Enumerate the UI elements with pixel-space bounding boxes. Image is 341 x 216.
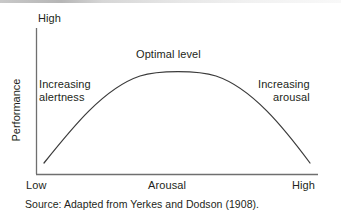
source-note: Source: Adapted from Yerkes and Dodson (… bbox=[25, 198, 259, 210]
y-axis-high-label: High bbox=[38, 12, 61, 25]
annotation-increasing-arousal: Increasing arousal bbox=[258, 78, 310, 103]
yerkes-dodson-figure: High Performance Low Arousal High Increa… bbox=[0, 0, 341, 216]
y-axis-title: Performance bbox=[10, 70, 22, 150]
x-axis-high-label: High bbox=[292, 179, 315, 192]
x-axis-title: Arousal bbox=[148, 179, 186, 192]
x-axis-low-label: Low bbox=[26, 179, 46, 192]
annotation-optimal-level: Optimal level bbox=[136, 48, 201, 61]
annotation-increasing-alertness: Increasing alertness bbox=[39, 78, 91, 103]
